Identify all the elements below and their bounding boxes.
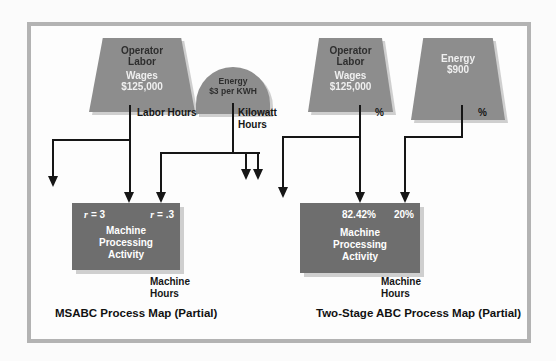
rate-label: r= .3 [150,209,174,220]
arrow-down-icon [400,192,410,203]
arrow-down-icon [241,169,251,180]
abc-machine-processing-activity-box: 82.42% 20% Machine Processing Activity [300,203,420,273]
arrow-down-icon [124,192,134,203]
pool-label: Energy [441,53,475,64]
percent-label: 82.42% [342,209,376,220]
labor-branch-line [52,139,131,141]
pool-label: Labor [128,56,156,67]
abc-operator-labor-cost-pool: Operator Labor Wages $125,000 [308,38,393,105]
pool-amount: $125,000 [121,81,163,92]
activity-name: Machine Processing Activity [72,225,180,261]
energy-branch-line [404,136,463,138]
activity-name: Machine Processing Activity [300,227,420,263]
labor-branch-drop-line [52,139,54,177]
pool-label: Labor [337,56,365,67]
abc-caption: Two-Stage ABC Process Map (Partial) [316,307,521,319]
pool-label: Operator [329,45,371,56]
pool-rate: $3 per KWH [209,86,257,96]
msabc-operator-labor-cost-pool: Operator Labor Wages $125,000 [89,38,195,105]
arrow-down-icon [355,192,365,203]
energy-drop-line [404,136,406,193]
pool-label: Wages [126,70,158,81]
machine-hours-label: Machine Hours [150,276,190,300]
pool-amount: $900 [447,64,469,75]
labor-driver-label: Labor Hours [137,107,196,119]
pool-amount: $125,000 [330,81,372,92]
rate-label: r= 3 [84,209,105,220]
labor-driver-label: % [375,107,384,119]
labor-branch-line [282,136,361,138]
energy-driver-label: Kilowatt Hours [238,107,277,131]
arrow-down-icon [48,176,58,187]
energy-flow-line [232,103,234,154]
msabc-machine-processing-activity-box: r= 3 r= .3 Machine Processing Activity [72,203,180,270]
msabc-caption: MSABC Process Map (Partial) [55,307,217,319]
arrow-down-icon [278,187,288,198]
energy-flow-line [461,105,463,138]
energy-driver-label: % [478,107,487,119]
process-map-figure: Operator Labor Wages $125,000 Energy $3 … [0,0,556,361]
pool-label: Wages [335,70,367,81]
arrow-down-icon [156,192,166,203]
arrow-down-icon [253,169,263,180]
pool-label: Operator [121,45,163,56]
labor-flow-line [359,105,361,193]
percent-label: 20% [394,209,414,220]
msabc-energy-cost-pool: Energy $3 per KWH [196,67,270,105]
pool-label: Energy [219,76,248,86]
abc-energy-cost-pool: Energy $900 [411,38,505,105]
labor-branch-drop-line [282,136,284,188]
machine-hours-label: Machine Hours [381,276,421,300]
energy-drop-line [160,152,162,193]
labor-flow-line [129,105,131,193]
